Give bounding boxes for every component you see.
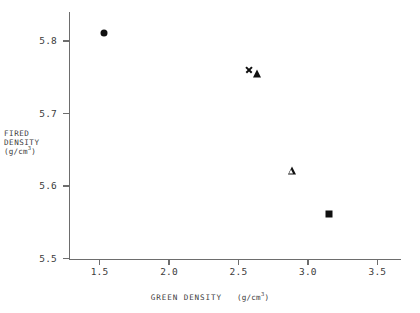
x-tick-mark (238, 259, 239, 265)
x-tick-mark (307, 259, 308, 265)
y-axis-title-unit: (g/cm3) (4, 147, 62, 156)
y-tick-label: 5.5 (17, 253, 57, 264)
y-tick-label: 5.6 (17, 180, 57, 191)
data-point-filled-triangle (253, 70, 261, 78)
x-tick-label: 1.5 (80, 266, 120, 277)
x-tick-label: 3.0 (288, 266, 328, 277)
x-tick-mark (377, 259, 378, 265)
y-axis-title-line1: FIRED (4, 129, 62, 138)
x-axis-line (69, 259, 401, 260)
x-tick-label: 3.5 (357, 266, 397, 277)
x-axis-title-main: GREEN DENSITY (151, 293, 222, 302)
y-tick-mark (63, 258, 69, 259)
x-tick-mark (168, 259, 169, 265)
y-axis-title: FIRED DENSITY (g/cm3) (4, 129, 62, 157)
x-axis-title: GREEN DENSITY (g/cm3) (0, 293, 420, 302)
data-point-filled-square (326, 211, 333, 218)
scatter-plot-figure: 5.55.65.75.8 1.52.02.53.03.5 FIRED DENSI… (0, 0, 420, 313)
y-axis-line (69, 12, 70, 260)
data-point-filled-circle (100, 30, 107, 37)
y-tick-mark (63, 113, 69, 114)
x-axis-title-unit: (g/cm3) (227, 293, 269, 302)
y-tick-label: 5.8 (17, 35, 57, 46)
x-tick-label: 2.0 (149, 266, 189, 277)
x-tick-label: 2.5 (218, 266, 258, 277)
y-tick-mark (63, 40, 69, 41)
x-tick-mark (99, 259, 100, 265)
y-tick-label: 5.7 (17, 108, 57, 119)
data-point-open-triangle (288, 166, 296, 174)
y-tick-mark (63, 185, 69, 186)
data-point-cross (245, 65, 253, 73)
